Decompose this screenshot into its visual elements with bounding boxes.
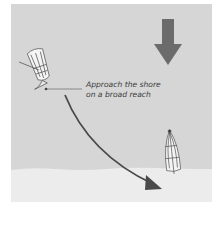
shore-area	[11, 168, 212, 202]
annotation-line-1: Approach the shore	[86, 80, 161, 90]
annotation-line-2: on a broad reach	[86, 90, 161, 100]
pointer-dot	[45, 88, 48, 91]
diagram-panel: Approach the shore on a broad reach	[11, 4, 212, 202]
diagram-canvas	[11, 4, 212, 202]
annotation-label: Approach the shore on a broad reach	[86, 80, 161, 100]
